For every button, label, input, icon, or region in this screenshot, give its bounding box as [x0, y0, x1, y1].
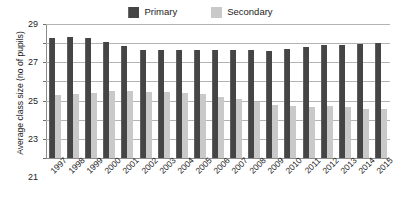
bar-secondary-2001 [127, 91, 133, 158]
x-axis-label-cell: 2000 [100, 160, 118, 198]
bar-secondary-2000 [109, 91, 115, 158]
bar-group [191, 24, 209, 158]
bar-group [281, 24, 299, 158]
x-axis-label-cell: 2015 [372, 160, 390, 198]
bar-secondary-2011 [309, 107, 315, 158]
bar-secondary-1997 [55, 95, 61, 158]
bar-secondary-2013 [345, 107, 351, 158]
bar-group [118, 24, 136, 158]
bar-group [300, 24, 318, 158]
y-axis-tick-label: 21 [28, 172, 38, 182]
x-axis-label-cell: 2011 [300, 160, 318, 198]
bar-group [64, 24, 82, 158]
x-axis-label-cell: 2012 [318, 160, 336, 198]
bar-secondary-2005 [200, 94, 206, 158]
legend-item-primary: Primary [128, 7, 177, 18]
x-axis-labels: 1997199819992000200120022003200420052006… [46, 160, 390, 198]
y-axis-tick: 15 [43, 158, 46, 159]
y-axis-tick-label: 27 [28, 57, 38, 67]
y-axis-title: Average class size (no of pupils) [15, 23, 25, 163]
x-axis-label-cell: 2013 [336, 160, 354, 198]
x-axis-label-cell: 1997 [46, 160, 64, 198]
bar-group [318, 24, 336, 158]
bar-secondary-1998 [73, 94, 79, 158]
bar-secondary-2008 [254, 102, 260, 158]
bar-secondary-2003 [164, 92, 170, 158]
x-axis-label-cell: 2006 [209, 160, 227, 198]
bar-chart: Primary Secondary Average class size (no… [0, 0, 401, 198]
bar-group [336, 24, 354, 158]
bar-secondary-2015 [381, 109, 387, 158]
bar-group [209, 24, 227, 158]
x-axis-label-cell: 2007 [227, 160, 245, 198]
bar-secondary-2007 [236, 99, 242, 158]
x-axis-label-cell: 2010 [281, 160, 299, 198]
x-axis-label-cell: 2009 [263, 160, 281, 198]
x-axis-label-cell: 2002 [137, 160, 155, 198]
bar-secondary-1999 [91, 93, 97, 158]
plot-area: 1517192123252729 [46, 24, 390, 158]
x-axis-label-cell: 2005 [191, 160, 209, 198]
bar-secondary-2010 [290, 106, 296, 158]
bars-layer [46, 24, 390, 158]
x-axis-label-cell: 2014 [354, 160, 372, 198]
bar-group [372, 24, 390, 158]
legend-label-secondary: Secondary [227, 7, 272, 17]
bar-group [354, 24, 372, 158]
x-axis-label-cell: 2001 [118, 160, 136, 198]
bar-group [82, 24, 100, 158]
legend-swatch-primary-icon [128, 7, 139, 18]
x-axis-label-cell: 1998 [64, 160, 82, 198]
bar-secondary-2002 [146, 92, 152, 158]
x-axis-label-cell: 2003 [155, 160, 173, 198]
bar-group [245, 24, 263, 158]
bar-group [137, 24, 155, 158]
x-axis-label-cell: 2008 [245, 160, 263, 198]
legend-item-secondary: Secondary [211, 7, 272, 18]
legend-swatch-secondary-icon [211, 7, 222, 18]
bar-group [46, 24, 64, 158]
bar-secondary-2006 [218, 97, 224, 158]
bar-group [155, 24, 173, 158]
bar-secondary-2012 [327, 106, 333, 158]
y-axis-tick-label: 25 [28, 96, 38, 106]
bar-group [173, 24, 191, 158]
bar-group [227, 24, 245, 158]
x-axis-label-cell: 1999 [82, 160, 100, 198]
chart-legend: Primary Secondary [0, 4, 401, 20]
y-axis-tick-label: 23 [28, 134, 38, 144]
bar-group [263, 24, 281, 158]
bar-group [100, 24, 118, 158]
x-axis-label-cell: 2004 [173, 160, 191, 198]
bar-secondary-2004 [182, 93, 188, 158]
legend-label-primary: Primary [144, 7, 177, 17]
y-axis-tick-label: 29 [28, 19, 38, 29]
bar-secondary-2009 [272, 105, 278, 158]
bar-secondary-2014 [363, 109, 369, 158]
